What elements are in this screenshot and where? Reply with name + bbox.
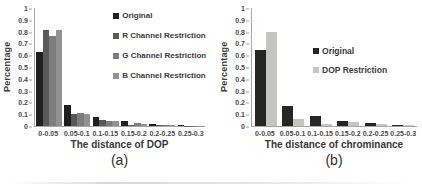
legend-swatch — [113, 13, 119, 19]
legend: OriginalDOP Restriction — [313, 46, 387, 75]
y-tick-label: 0.8 — [18, 28, 32, 35]
bar-b-channel-restriction — [169, 125, 176, 126]
x-tick-label: 0.15-0.2 — [120, 127, 149, 137]
bar-group — [63, 8, 91, 126]
x-axis-ticks: 0-0.050.05-0.10.1-0.150.15-0.20.2-0.250.… — [251, 127, 417, 137]
y-axis-gutter: Percentage 10.90.80.70.60.50.40.30.20.10 — [219, 8, 251, 126]
legend-label: R Channel Restriction — [122, 31, 206, 40]
y-tick-label: 0.5 — [18, 64, 32, 71]
page-scan-artifact — [8, 182, 414, 184]
x-axis-title: The distance of chrominance — [251, 137, 417, 150]
legend-item: DOP Restriction — [313, 65, 387, 75]
chart-chrominance-distance: Percentage 10.90.80.70.60.50.40.30.20.10… — [211, 0, 422, 187]
bar-group — [252, 8, 280, 126]
y-tick-label: 0.4 — [18, 75, 32, 82]
y-tick-label: 0.1 — [18, 111, 32, 118]
y-tick-label: 0.4 — [235, 75, 249, 82]
bar-group — [35, 8, 63, 126]
plot-row: Percentage 10.90.80.70.60.50.40.30.20.10… — [219, 8, 422, 127]
x-tick-label: 0.25-0.3 — [389, 127, 417, 137]
legend-item: B Channel Restriction — [113, 71, 206, 80]
bar-dop-restriction — [348, 122, 359, 126]
bar-b-channel-restriction — [141, 124, 148, 126]
legend-label: DOP Restriction — [322, 65, 387, 75]
bar-group — [390, 8, 418, 126]
y-axis-title: Percentage — [219, 8, 229, 126]
bar-dop-restriction — [321, 124, 332, 126]
x-axis-row: 0-0.050.05-0.10.1-0.150.15-0.20.2-0.250.… — [2, 127, 211, 137]
bar-dop-restriction — [376, 124, 387, 126]
legend-swatch — [313, 67, 319, 73]
y-axis-ticks: 10.90.80.70.60.50.40.30.20.10 — [229, 8, 251, 126]
bar-original — [365, 123, 376, 126]
bar-dop-restriction — [266, 32, 277, 126]
legend-swatch — [113, 53, 119, 59]
subfigure-caption: (a) — [34, 150, 205, 168]
bar-original — [255, 50, 266, 126]
y-tick-label: 0 — [24, 123, 32, 130]
chart-dop-distance: Percentage 10.90.80.70.60.50.40.30.20.10… — [0, 0, 211, 187]
bar-b-channel-restriction — [112, 121, 119, 126]
y-axis-gutter: Percentage 10.90.80.70.60.50.40.30.20.10 — [2, 8, 34, 126]
x-tick-label: 0.2-0.25 — [362, 127, 390, 137]
bar-original — [310, 116, 321, 126]
x-tick-label: 0.1-0.15 — [91, 127, 120, 137]
y-tick-label: 0.7 — [235, 40, 249, 47]
legend-item: Original — [113, 11, 206, 20]
y-axis-ticks: 10.90.80.70.60.50.40.30.20.10 — [12, 8, 34, 126]
plot-area: OriginalR Channel RestrictionG Channel R… — [34, 8, 205, 127]
legend-swatch — [113, 33, 119, 39]
legend-label: G Channel Restriction — [122, 51, 206, 60]
y-tick-label: 1 — [24, 5, 32, 12]
y-tick-label: 0.3 — [235, 87, 249, 94]
y-tick-label: 0.6 — [235, 52, 249, 59]
x-tick-label: 0.1-0.15 — [306, 127, 334, 137]
legend: OriginalR Channel RestrictionG Channel R… — [113, 11, 206, 80]
bar-group — [280, 8, 308, 126]
y-tick-label: 0.2 — [18, 99, 32, 106]
bar-original — [392, 125, 403, 126]
plot-row: Percentage 10.90.80.70.60.50.40.30.20.10… — [2, 8, 211, 127]
plot-area: OriginalDOP Restriction — [251, 8, 417, 127]
bar-dop-restriction — [293, 119, 304, 126]
y-axis-title: Percentage — [2, 8, 12, 126]
y-tick-label: 1 — [241, 5, 249, 12]
y-tick-label: 0.7 — [18, 40, 32, 47]
y-tick-label: 0.1 — [235, 111, 249, 118]
y-tick-label: 0.5 — [235, 64, 249, 71]
legend-item: R Channel Restriction — [113, 31, 206, 40]
legend-item: Original — [313, 46, 387, 56]
y-tick-label: 0 — [241, 123, 249, 130]
bar-dop-restriction — [403, 125, 414, 126]
legend-label: Original — [122, 11, 152, 20]
x-tick-label: 0.15-0.2 — [334, 127, 362, 137]
bar-original — [337, 121, 348, 126]
bar-b-channel-restriction — [56, 30, 63, 126]
x-tick-label: 0.05-0.1 — [63, 127, 92, 137]
legend-label: B Channel Restriction — [122, 71, 206, 80]
y-tick-label: 0.6 — [18, 52, 32, 59]
x-tick-label: 0-0.05 — [251, 127, 279, 137]
y-tick-label: 0.2 — [235, 99, 249, 106]
bar-original — [282, 106, 293, 126]
x-axis-ticks: 0-0.050.05-0.10.1-0.150.15-0.20.2-0.250.… — [34, 127, 205, 137]
bar-b-channel-restriction — [84, 114, 91, 126]
y-tick-label: 0.8 — [235, 28, 249, 35]
x-axis-title: The distance of DOP — [34, 137, 205, 150]
legend-label: Original — [322, 46, 354, 56]
legend-swatch — [113, 73, 119, 79]
x-tick-label: 0.2-0.25 — [148, 127, 177, 137]
y-tick-label: 0.9 — [235, 16, 249, 23]
y-tick-label: 0.9 — [18, 16, 32, 23]
y-tick-label: 0.3 — [18, 87, 32, 94]
subfigure-caption: (b) — [251, 150, 417, 168]
legend-item: G Channel Restriction — [113, 51, 206, 60]
x-tick-label: 0.05-0.1 — [279, 127, 307, 137]
x-tick-label: 0.25-0.3 — [177, 127, 206, 137]
figure-two-bar-charts: Percentage 10.90.80.70.60.50.40.30.20.10… — [0, 0, 422, 187]
legend-swatch — [313, 48, 319, 54]
x-axis-row: 0-0.050.05-0.10.1-0.150.15-0.20.2-0.250.… — [219, 127, 422, 137]
x-tick-label: 0-0.05 — [34, 127, 63, 137]
